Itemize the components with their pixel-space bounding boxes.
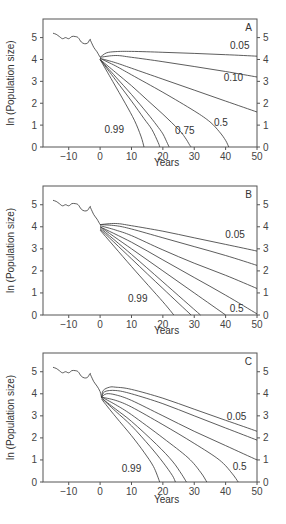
y-tick-label-left: 0 xyxy=(31,142,37,153)
x-tick-label: 50 xyxy=(251,319,263,330)
x-tick-label: 50 xyxy=(251,151,263,162)
panel-label: B xyxy=(245,189,252,200)
y-tick-label-left: 4 xyxy=(31,221,37,232)
curve-annotation: 0.05 xyxy=(230,40,250,51)
y-tick-label-right: 3 xyxy=(263,243,269,254)
curve-annotation: 0.5 xyxy=(214,117,228,128)
historical-trace xyxy=(53,200,100,224)
y-tick-label-right: 2 xyxy=(263,98,269,109)
x-axis-label: Years xyxy=(154,325,179,336)
y-tick-label-left: 1 xyxy=(31,454,37,465)
x-tick-label: 30 xyxy=(189,486,201,497)
y-tick-label-left: 4 xyxy=(31,388,37,399)
x-tick-label: 50 xyxy=(251,486,263,497)
y-tick-label-right: 5 xyxy=(263,199,269,210)
y-tick-label-left: 2 xyxy=(31,98,37,109)
y-tick-label-right: 2 xyxy=(263,432,269,443)
y-tick-label-right: 3 xyxy=(263,76,269,87)
y-tick-label-left: 3 xyxy=(31,76,37,87)
historical-trace xyxy=(53,367,102,398)
panel-c: 001122334455−1001020304050Yearsln (Popul… xyxy=(5,353,269,505)
x-tick-label: 10 xyxy=(126,151,138,162)
x-axis-label: Years xyxy=(154,494,179,505)
y-tick-label-left: 3 xyxy=(31,243,37,254)
panel-label: C xyxy=(245,356,252,367)
y-tick-label-right: 3 xyxy=(263,410,269,421)
curve-annotation: 0.5 xyxy=(230,303,244,314)
panel-b: 001122334455−1001020304050Yearsln (Popul… xyxy=(5,186,269,336)
y-tick-label-left: 0 xyxy=(31,477,37,488)
x-tick-label: 40 xyxy=(220,319,232,330)
y-tick-label-right: 4 xyxy=(263,388,269,399)
y-tick-label-left: 5 xyxy=(31,199,37,210)
x-tick-label: 0 xyxy=(97,151,103,162)
y-tick-label-right: 0 xyxy=(263,477,269,488)
curve-annotation: 0.99 xyxy=(122,463,142,474)
curve-annotation: 0.05 xyxy=(225,229,245,240)
x-tick-label: 10 xyxy=(126,486,138,497)
chart-figure: 001122334455−1001020304050Yearsln (Popul… xyxy=(0,0,286,524)
x-axis-label: Years xyxy=(154,157,179,168)
projection-line-0.85 xyxy=(100,228,200,315)
y-tick-label-left: 5 xyxy=(31,32,37,43)
panel-a: 001122334455−1001020304050Yearsln (Popul… xyxy=(5,19,269,168)
y-tick-label-right: 4 xyxy=(263,221,269,232)
y-tick-label-left: 1 xyxy=(31,287,37,298)
y-tick-label-left: 2 xyxy=(31,432,37,443)
x-tick-label: 30 xyxy=(189,151,201,162)
panel-label: A xyxy=(245,22,252,33)
y-tick-label-left: 1 xyxy=(31,120,37,131)
curve-annotation: 0.10 xyxy=(224,72,244,83)
y-tick-label-left: 5 xyxy=(31,366,37,377)
x-tick-label: 10 xyxy=(126,319,138,330)
y-tick-label-left: 3 xyxy=(31,410,37,421)
y-tick-label-right: 0 xyxy=(263,310,269,321)
x-tick-label: 40 xyxy=(220,486,232,497)
x-tick-label: −10 xyxy=(60,319,77,330)
y-tick-label-left: 2 xyxy=(31,265,37,276)
x-tick-label: −10 xyxy=(60,486,77,497)
y-tick-label-right: 1 xyxy=(263,454,269,465)
x-tick-label: 0 xyxy=(97,486,103,497)
x-tick-label: −10 xyxy=(60,151,77,162)
projection-line-0.05 xyxy=(102,387,257,431)
plot-frame xyxy=(43,186,257,315)
x-tick-label: 30 xyxy=(189,319,201,330)
y-axis-label: ln (Population size) xyxy=(5,40,16,125)
curve-annotation: 0.99 xyxy=(128,293,148,304)
historical-trace xyxy=(53,33,100,57)
y-tick-label-right: 5 xyxy=(263,32,269,43)
curve-annotation: 0.5 xyxy=(233,461,247,472)
curve-annotation: 0.05 xyxy=(227,411,247,422)
y-tick-label-right: 2 xyxy=(263,265,269,276)
y-tick-label-right: 1 xyxy=(263,287,269,298)
y-tick-label-right: 5 xyxy=(263,366,269,377)
y-tick-label-left: 4 xyxy=(31,54,37,65)
x-tick-label: 0 xyxy=(97,319,103,330)
y-axis-label: ln (Population size) xyxy=(5,208,16,293)
projection-line-0.75 xyxy=(102,397,207,482)
y-tick-label-right: 0 xyxy=(263,142,269,153)
y-tick-label-right: 1 xyxy=(263,120,269,131)
y-tick-label-right: 4 xyxy=(263,54,269,65)
curve-annotation: 0.99 xyxy=(104,124,124,135)
y-tick-label-left: 0 xyxy=(31,310,37,321)
curve-annotation: 0.75 xyxy=(175,125,195,136)
y-axis-label: ln (Population size) xyxy=(5,375,16,460)
x-tick-label: 40 xyxy=(220,151,232,162)
